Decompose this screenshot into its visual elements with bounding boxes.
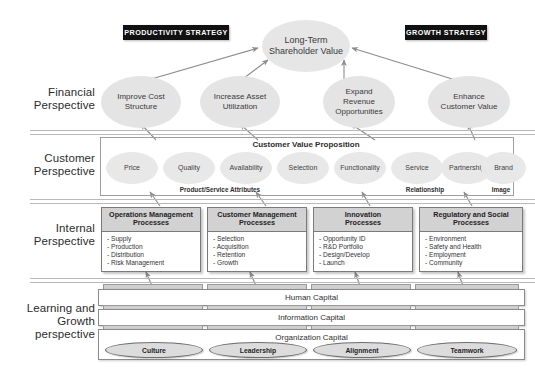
process-item: - Acquisition [213,243,306,251]
customer-group-product-service-attributes: Product/Service Attributes [130,186,310,193]
ellipse-attribute-availability: Availability [220,152,272,184]
process-item: - Distribution [107,251,200,259]
process-box-title: Innovation Processes [314,208,412,232]
divider-financial-customer-2 [30,134,535,135]
ellipse-attribute-selection: Selection [277,152,329,184]
perspective-label-learning: Learning and Growth perspective [5,302,95,341]
process-box-items: - Environment - Safety and Health - Empl… [420,232,522,268]
divider-internal-learning [30,278,535,279]
process-item: - Design/Develop [319,251,412,259]
process-item: - Risk Management [107,259,200,267]
process-item: - Retention [213,251,306,259]
divider-financial-customer [30,130,535,131]
ellipse-enhance-customer-value: Enhance Customer Value [428,76,510,128]
process-box-operations-management: Operations Management Processes - Supply… [101,207,201,272]
ellipse-attribute-functionality: Functionality [334,152,386,184]
customer-group-relationship: Relationship [390,186,460,193]
banner-growth-strategy: GROWTH STRATEGY [405,25,487,40]
process-box-title: Regulatory and Social Processes [420,208,522,232]
divider-internal-learning-2 [30,282,535,283]
band-information-capital: Information Capital [98,309,525,326]
divider-customer-internal-2 [30,203,535,204]
customer-group-image: Image [478,186,524,193]
process-item: - Growth [213,259,306,267]
process-box-title: Customer Management Processes [208,208,306,232]
ellipse-improve-cost-structure: Improve Cost Structure [101,76,181,128]
process-box-items: - Supply - Production - Distribution - R… [102,232,200,268]
process-item: - Supply [107,235,200,243]
process-item: - Opportunity ID [319,235,412,243]
process-item: - Safety and Health [425,243,522,251]
ellipse-leadership: Leadership [209,342,307,358]
banner-productivity-strategy: PRODUCTIVITY STRATEGY [123,25,229,40]
customer-value-proposition-title: Customer Value Proposition [100,140,512,149]
ellipse-alignment: Alignment [313,342,411,358]
ellipse-increase-asset-utilization: Increase Asset Utilization [200,76,280,128]
ellipse-attribute-quality: Quality [163,152,215,184]
band-human-capital: Human Capital [98,289,525,306]
process-box-innovation: Innovation Processes - Opportunity ID - … [313,207,413,272]
process-item: - Selection [213,235,306,243]
divider-customer-internal [30,199,535,200]
process-item: - R&D Portfolio [319,243,412,251]
ellipse-culture: Culture [105,342,203,358]
process-box-customer-management: Customer Management Processes - Selectio… [207,207,307,272]
ellipse-expand-revenue-opportunities: Expand Revenue Opportunities [323,76,395,128]
process-box-items: - Selection - Acquisition - Retention - … [208,232,306,268]
perspective-label-customer: Customer Perspective [5,152,95,178]
process-box-title: Operations Management Processes [102,208,200,232]
band-organization-capital-label: Organization Capital [99,330,524,342]
strategy-map-canvas: PRODUCTIVITY STRATEGY GROWTH STRATEGY Fi… [0,0,535,371]
process-item: - Community [425,259,522,267]
perspective-label-internal: Internal Perspective [5,222,95,248]
ellipse-teamwork: Teamwork [417,342,517,358]
process-item: - Employment [425,251,522,259]
process-box-regulatory-and-social: Regulatory and Social Processes - Enviro… [419,207,523,272]
perspective-label-financial: Financial Perspective [5,86,95,112]
process-box-items: - Opportunity ID - R&D Portfolio - Desig… [314,232,412,268]
process-item: - Launch [319,259,412,267]
ellipse-attribute-brand: Brand [481,152,526,184]
ellipse-attribute-service: Service [391,152,443,184]
ellipse-long-term-shareholder-value: Long-Term Shareholder Value [262,20,350,72]
process-item: - Production [107,243,200,251]
ellipse-attribute-price: Price [106,152,158,184]
process-item: - Environment [425,235,522,243]
